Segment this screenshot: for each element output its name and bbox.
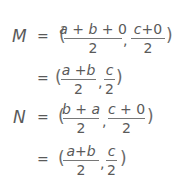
equals-sign: =: [37, 71, 49, 85]
fraction-x-coordinate: a +b 2: [61, 63, 96, 96]
fraction-x-coordinate: b + a 2: [63, 102, 99, 135]
numerator: c: [105, 63, 115, 77]
comma: ,: [102, 114, 106, 128]
denominator: 2: [89, 41, 98, 55]
denominator: 2: [107, 163, 116, 177]
fraction-bar: [106, 160, 117, 161]
variable-n: N: [13, 109, 26, 126]
variable-m: M: [12, 28, 27, 45]
numerator: a + b + 0: [58, 22, 128, 36]
comma: ,: [123, 33, 127, 47]
equation-line-2: = ( a +b 2 , c 2 ): [0, 58, 178, 98]
fraction-bar: [108, 118, 145, 119]
fraction-bar: [64, 38, 122, 39]
denominator: 2: [144, 41, 153, 55]
fraction-y-coordinate: c+0 2: [131, 22, 165, 55]
equals-sign: =: [37, 110, 49, 124]
fraction-y-coordinate: c 2: [106, 144, 117, 177]
equals-sign: =: [37, 29, 49, 43]
fraction-bar: [63, 160, 99, 161]
denominator: 2: [77, 121, 86, 135]
comma: ,: [100, 156, 104, 170]
fraction-y-coordinate: c + 0 2: [108, 102, 145, 135]
equation-line-4: = ( a+b 2 , c 2 ): [0, 139, 178, 179]
comma: ,: [98, 75, 102, 89]
fraction-x-coordinate: a+b 2: [63, 144, 99, 177]
equals-sign: =: [37, 152, 49, 166]
close-paren: ): [120, 150, 127, 167]
close-paren: ): [147, 108, 154, 125]
denominator: 2: [105, 82, 114, 96]
fraction-bar: [131, 38, 165, 39]
numerator: c: [107, 144, 117, 158]
fraction-bar: [63, 118, 99, 119]
numerator: b + a: [61, 102, 101, 116]
fraction-y-coordinate: c 2: [104, 63, 115, 96]
equation-line-3: N = ( b + a 2 , c + 0 2 ): [0, 97, 178, 137]
fraction-x-coordinate: a + b + 0 2: [64, 22, 122, 55]
numerator: a +b: [61, 63, 97, 77]
numerator: a+b: [65, 144, 96, 158]
close-paren: ): [166, 27, 173, 44]
equation-line-1: M = ( a + b + 0 2 , c+0 2 ): [0, 16, 178, 56]
denominator: 2: [77, 163, 86, 177]
denominator: 2: [74, 82, 83, 96]
close-paren: ): [116, 69, 123, 86]
numerator: c+0: [133, 22, 163, 36]
numerator: c + 0: [107, 102, 146, 116]
fraction-bar: [104, 79, 115, 80]
fraction-bar: [61, 79, 96, 80]
denominator: 2: [122, 121, 131, 135]
